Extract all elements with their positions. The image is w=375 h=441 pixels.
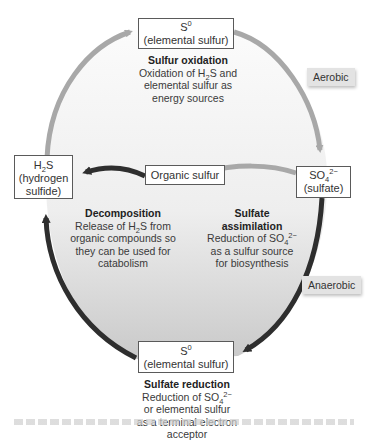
process-sulfur-oxidation: Sulfur oxidation Oxidation of H2S and el… [128, 54, 248, 104]
node-hydrogen-sulfide: H2S (hydrogen sulfide) [14, 155, 73, 199]
process-sulfate-assimilation: Sulfate assimilation Reduction of SO42− … [202, 207, 302, 270]
node-organic-sulfur: Organic sulfur [145, 165, 225, 185]
process-sulfate-reduction: Sulfate reduction Reduction of SO42− or … [126, 378, 248, 441]
node-elemental-sulfur-bottom: S0 (elemental sulfur) [138, 341, 234, 373]
tag-aerobic: Aerobic [307, 68, 355, 86]
process-decomposition: Decomposition Release of H2S from organi… [64, 207, 182, 270]
figure-caption-cropped [14, 419, 354, 425]
node-elemental-sulfur-top: S0 (elemental sulfur) [138, 18, 234, 49]
tag-anaerobic: Anaerobic [302, 276, 361, 294]
node-sulfate: SO42− (sulfate) [296, 166, 351, 198]
